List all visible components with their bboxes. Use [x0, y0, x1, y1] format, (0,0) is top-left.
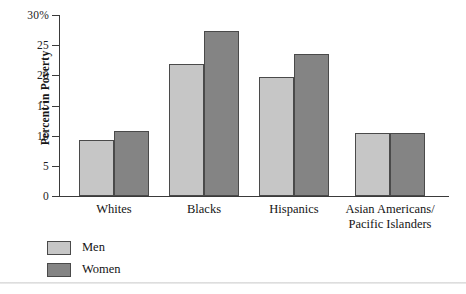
- bar-women-2: [294, 54, 329, 196]
- bar-women-3: [390, 133, 425, 196]
- legend-label: Men: [82, 240, 105, 255]
- bar-men-3: [355, 133, 390, 196]
- bar-women-1: [204, 31, 239, 196]
- legend-swatch-men: [47, 241, 71, 255]
- y-tick-5: 5: [59, 166, 60, 167]
- legend-label: Women: [82, 262, 121, 277]
- bar-men-2: [259, 77, 294, 196]
- y-tick-label: 20: [37, 69, 49, 81]
- y-tick-mark: [52, 166, 59, 167]
- legend-item-women: Women: [47, 260, 121, 279]
- y-tick-mark: [52, 75, 59, 76]
- y-tick-0: 0: [59, 196, 60, 197]
- x-axis-line: [59, 196, 449, 197]
- x-category-label-3: Asian Americans/Pacific Islanders: [310, 202, 466, 232]
- page-scan-line: [0, 282, 466, 284]
- plot-area: 30%2520151050: [59, 15, 448, 196]
- y-tick-label: 10: [37, 130, 49, 142]
- y-tick-10: 10: [59, 136, 60, 137]
- y-tick-30: 30%: [59, 15, 60, 16]
- y-tick-20: 20: [59, 75, 60, 76]
- x-category-label-line: Pacific Islanders: [310, 217, 466, 232]
- y-tick-label: 25: [37, 39, 49, 51]
- x-category-label-line: Asian Americans/: [310, 202, 466, 217]
- y-tick-mark: [52, 15, 59, 16]
- y-tick-15: 15: [59, 106, 60, 107]
- legend-item-men: Men: [47, 238, 121, 257]
- y-tick-mark: [52, 196, 59, 197]
- y-tick-label: 15: [37, 100, 49, 112]
- bar-women-0: [114, 131, 149, 196]
- y-tick-mark: [52, 136, 59, 137]
- poverty-bar-chart-figure: Percent in Poverty 30%2520151050 WhitesB…: [0, 0, 466, 294]
- y-tick-label: 30%: [27, 9, 49, 21]
- y-tick-25: 25: [59, 45, 60, 46]
- y-tick-mark: [52, 106, 59, 107]
- y-tick-label: 5: [43, 160, 49, 172]
- bar-men-0: [79, 140, 114, 196]
- y-tick-mark: [52, 45, 59, 46]
- legend-swatch-women: [47, 263, 71, 277]
- chart-legend: MenWomen: [47, 238, 121, 282]
- bar-men-1: [169, 64, 204, 196]
- y-tick-label: 0: [43, 190, 49, 202]
